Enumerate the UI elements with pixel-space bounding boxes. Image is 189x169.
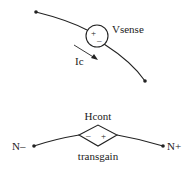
hcont-label: Hcont	[85, 110, 112, 122]
node-minus-label: N–	[12, 140, 26, 152]
current-label: Ic	[75, 55, 84, 67]
current-arrowhead-icon	[91, 54, 98, 60]
circuit-diagram: + – Vsense Ic – + Hcont transgain N– N+	[0, 0, 189, 169]
hcont-node-plus	[161, 144, 165, 148]
hcont-minus-sign: –	[85, 130, 91, 140]
vsense-node-left	[34, 10, 38, 14]
vsense-plus-sign: +	[91, 28, 96, 38]
hcont-plus-sign: +	[101, 131, 106, 141]
vsense-wire-right	[104, 44, 145, 81]
hcont-wire-left	[34, 135, 79, 146]
node-plus-label: N+	[167, 140, 181, 152]
vsense-minus-sign: –	[96, 35, 102, 45]
hcont-node-minus	[32, 144, 36, 148]
vsense-label: Vsense	[112, 23, 144, 35]
dependent-source-diamond	[79, 125, 117, 146]
transgain-label: transgain	[78, 150, 119, 162]
vsense-wire-left	[36, 12, 87, 30]
hcont-wire-right	[117, 135, 163, 146]
hcont-element: – + Hcont transgain N– N+	[12, 110, 181, 162]
vsense-node-right	[143, 79, 147, 83]
vsense-element: + – Vsense Ic	[34, 10, 147, 83]
